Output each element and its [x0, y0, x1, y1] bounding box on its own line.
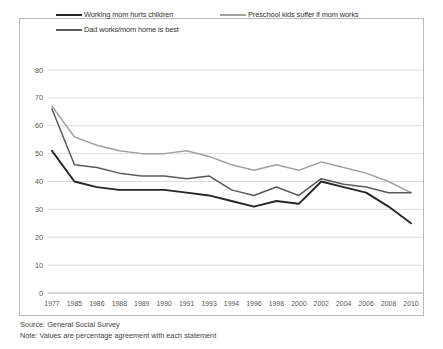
- x-tick-label: 1988: [112, 300, 127, 307]
- x-tick-label: 1996: [246, 300, 261, 307]
- x-tick-label: 1990: [157, 300, 172, 307]
- line-chart-svg: 01020304050607080 1977198519861988198919…: [19, 18, 424, 316]
- x-tick-label: 1985: [67, 300, 82, 307]
- y-tick-label: 10: [35, 261, 43, 270]
- series-line-0: [52, 151, 411, 223]
- x-tick-label: 2000: [291, 300, 306, 307]
- y-tick-label: 70: [35, 93, 43, 102]
- gridlines-group: [48, 70, 423, 293]
- chart-page: Working mom hurts children Preschool kid…: [0, 0, 443, 349]
- x-tick-label: 1994: [224, 300, 239, 307]
- legend-swatch-series-0: [56, 14, 82, 16]
- x-tick-label: 1989: [134, 300, 149, 307]
- series-line-1: [52, 106, 411, 192]
- legend-swatch-series-1: [220, 14, 246, 16]
- y-tick-label: 20: [35, 233, 43, 242]
- series-group: [52, 106, 411, 223]
- x-tick-label: 2008: [381, 300, 396, 307]
- chart-notes: Source: General Social Survey Note: Valu…: [20, 320, 440, 341]
- x-tick-label: 2010: [403, 300, 418, 307]
- x-tick-label: 2004: [336, 300, 351, 307]
- y-tick-label: 30: [35, 205, 43, 214]
- x-tick-label: 1998: [269, 300, 284, 307]
- x-tick-label: 1986: [89, 300, 104, 307]
- values-note: Note: Values are percentage agreement wi…: [20, 331, 440, 342]
- x-tick-label: 1977: [44, 300, 59, 307]
- y-tick-label: 40: [35, 177, 43, 186]
- x-tick-label: 1993: [201, 300, 216, 307]
- source-note: Source: General Social Survey: [20, 320, 440, 331]
- y-tick-label: 0: [39, 289, 43, 298]
- x-axis-labels-group: 1977198519861988198919901991199319941996…: [44, 300, 418, 307]
- y-tick-label: 80: [35, 66, 43, 75]
- y-axis-labels-group: 01020304050607080: [35, 66, 43, 298]
- x-tick-label: 2002: [314, 300, 329, 307]
- x-tick-label: 2006: [358, 300, 373, 307]
- y-tick-label: 60: [35, 121, 43, 130]
- series-line-2: [52, 109, 411, 195]
- y-tick-label: 50: [35, 149, 43, 158]
- plot-area: 01020304050607080 1977198519861988198919…: [19, 18, 424, 316]
- x-tick-label: 1991: [179, 300, 194, 307]
